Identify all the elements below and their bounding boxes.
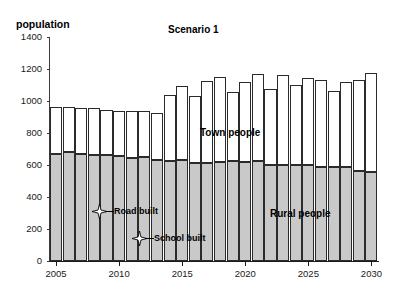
bar-2018 [214, 77, 226, 261]
bar-segment-town [113, 111, 125, 156]
x-tick-mark [245, 262, 246, 266]
bar-2020 [239, 82, 251, 261]
bar-segment-rural [201, 163, 213, 261]
bar-segment-town [353, 80, 365, 171]
bar-2022 [264, 89, 276, 261]
bars-container [50, 37, 378, 261]
bar-2028 [340, 82, 352, 261]
x-tick-label: 2005 [36, 269, 76, 279]
bar-2027 [328, 91, 340, 261]
bar-segment-town [252, 74, 264, 161]
x-tick-mark [119, 262, 120, 266]
bar-segment-rural [189, 163, 201, 261]
bar-segment-rural [164, 161, 176, 261]
bar-2005 [50, 107, 62, 261]
x-tick-label: 2025 [288, 269, 328, 279]
bar-2029 [353, 80, 365, 261]
x-tick-mark [182, 262, 183, 266]
bar-2009 [100, 110, 112, 261]
bar-segment-rural [75, 154, 87, 261]
bar-segment-town [126, 111, 138, 157]
bar-segment-town [151, 113, 163, 160]
bar-segment-rural [353, 171, 365, 261]
bar-segment-town [201, 81, 213, 163]
bar-segment-town [315, 80, 327, 166]
x-tick-label: 2030 [351, 269, 391, 279]
series-label-rural: Rural people [270, 208, 331, 219]
bar-segment-rural [365, 172, 377, 261]
bar-segment-town [214, 77, 226, 162]
school-built-leader-line [145, 238, 154, 239]
bar-2030 [365, 73, 377, 261]
bar-segment-rural [50, 154, 62, 261]
bar-segment-town [290, 85, 302, 165]
bar-2025 [302, 78, 314, 261]
bar-segment-rural [340, 167, 352, 261]
x-tick-mark [308, 262, 309, 266]
bar-segment-town [75, 108, 87, 154]
bar-segment-rural [227, 161, 239, 261]
bar-segment-rural [252, 161, 264, 261]
bar-segment-town [164, 95, 176, 161]
bar-segment-town [138, 111, 150, 157]
road-built-leader-line [105, 211, 114, 212]
bar-segment-town [340, 82, 352, 168]
bar-2010 [113, 111, 125, 261]
bar-segment-town [277, 75, 289, 165]
bar-segment-town [328, 91, 340, 167]
bar-segment-town [302, 78, 314, 165]
bar-2026 [315, 80, 327, 261]
bar-segment-town [176, 86, 188, 160]
x-tick-label: 2015 [162, 269, 202, 279]
bar-2023 [277, 75, 289, 261]
series-label-town: Town people [200, 127, 260, 138]
x-tick-label: 2020 [225, 269, 265, 279]
road-built-label: Road built [114, 206, 158, 216]
bar-segment-rural [239, 162, 251, 261]
bar-2024 [290, 85, 302, 261]
bar-segment-town [365, 73, 377, 172]
bar-2008 [88, 108, 100, 261]
bar-segment-town [63, 107, 75, 152]
bar-segment-town [100, 110, 112, 156]
bar-segment-town [88, 108, 100, 154]
bar-segment-town [50, 107, 62, 153]
school-built-label: School built [154, 233, 206, 243]
bar-segment-town [264, 89, 276, 165]
bar-segment-rural [63, 152, 75, 261]
bar-2006 [63, 107, 75, 261]
bar-segment-rural [176, 160, 188, 261]
bar-2021 [252, 74, 264, 261]
population-stacked-bar-chart: population Scenario 1 020040060080010001… [0, 0, 399, 305]
bar-2019 [227, 92, 239, 261]
x-tick-mark [371, 262, 372, 266]
bar-segment-rural [214, 162, 226, 261]
bar-segment-town [239, 82, 251, 162]
bar-2007 [75, 108, 87, 261]
x-tick-label: 2010 [99, 269, 139, 279]
x-tick-mark [56, 262, 57, 266]
